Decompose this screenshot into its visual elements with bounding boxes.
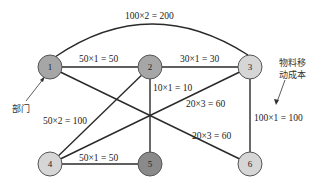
node-2-label: 2: [148, 62, 153, 72]
edge-label-2-3: 30×1 = 30: [180, 54, 219, 64]
cost-arrowhead-icon: [274, 99, 279, 105]
edge-label-4-3: 20×3 = 60: [186, 99, 225, 109]
cost-pointer: [277, 80, 285, 102]
edge-label-3-6: 100×1 = 100: [254, 113, 303, 123]
edge-label-1-3: 100×2 = 200: [125, 11, 174, 21]
material-cost-annotation-line1: 物料移: [279, 57, 306, 68]
node-6: 6: [238, 152, 262, 176]
node-6-label: 6: [248, 159, 253, 169]
node-1-label: 1: [48, 62, 53, 72]
node-4-label: 4: [48, 159, 53, 169]
node-5: 5: [138, 152, 162, 176]
edge-label-4-5: 50×1 = 50: [79, 153, 118, 163]
department-pointer: [26, 78, 44, 101]
edge-label-4-2: 50×2 = 100: [43, 116, 87, 126]
edge-1-3: [55, 24, 248, 57]
node-3: 3: [238, 55, 262, 79]
node-3-label: 3: [248, 62, 253, 72]
department-annotation: 部门: [12, 103, 30, 114]
network-diagram: 1 2 3 4 5 6 100×2 = 200 50×1 = 50 30×1 =…: [0, 0, 316, 188]
edge-label-2-5: 10×1 = 10: [153, 83, 192, 93]
node-1: 1: [38, 55, 62, 79]
node-4: 4: [38, 152, 62, 176]
node-5-label: 5: [148, 159, 153, 169]
node-2: 2: [138, 55, 162, 79]
edge-label-1-6: 20×3 = 60: [192, 131, 231, 141]
edge-label-1-2: 50×1 = 50: [79, 54, 118, 64]
material-cost-annotation-line2: 动成本: [279, 69, 306, 80]
